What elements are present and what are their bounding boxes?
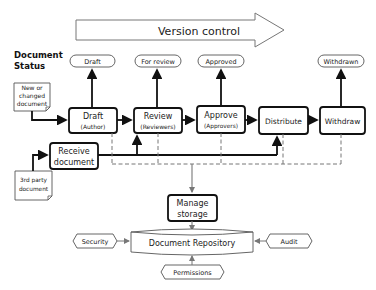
- process-receive-document: Receive document: [50, 143, 98, 169]
- svg-text:Draft: Draft: [83, 112, 103, 121]
- svg-text:storage: storage: [177, 210, 207, 219]
- status-heading-line1: Document: [14, 50, 63, 60]
- process-distribute: Distribute: [259, 107, 308, 134]
- svg-text:Distribute: Distribute: [265, 117, 302, 126]
- version-control-arrow: Version control: [76, 13, 284, 47]
- arrow-third-party-to-receive: [33, 155, 47, 171]
- control-audit: Audit: [266, 234, 312, 248]
- svg-text:Security: Security: [82, 238, 109, 246]
- process-approve: Approve (Approvers): [197, 106, 245, 133]
- third-party-document-note: 3rd party document: [15, 171, 52, 200]
- svg-text:changed: changed: [19, 92, 45, 100]
- svg-text:Permissions: Permissions: [173, 269, 212, 277]
- svg-text:document: document: [17, 100, 48, 107]
- status-withdrawn-label: Withdrawn: [324, 58, 359, 66]
- status-draft-label: Draft: [84, 58, 101, 66]
- status-pill-withdrawn: Withdrawn: [318, 55, 364, 67]
- status-pill-draft: Draft: [70, 55, 115, 67]
- document-management-diagram: Version control Document Status Draft Fo…: [0, 0, 376, 290]
- status-pill-for-review: For review: [135, 55, 181, 67]
- process-draft: Draft (Author): [69, 108, 117, 133]
- svg-text:document: document: [54, 158, 94, 167]
- version-control-label: Version control: [158, 25, 240, 38]
- process-withdraw: Withdraw: [320, 107, 365, 134]
- new-document-note: New or changed document: [14, 83, 50, 111]
- process-manage-storage: Manage storage: [168, 195, 217, 221]
- dashed-storage-connectors: [112, 133, 341, 164]
- svg-text:(Approvers): (Approvers): [204, 123, 238, 130]
- repository-label: Document Repository: [149, 239, 236, 248]
- control-security: Security: [73, 234, 117, 248]
- status-approved-label: Approved: [205, 58, 236, 66]
- svg-text:Approve: Approve: [204, 111, 237, 120]
- process-review: Review (Reviewers): [134, 108, 182, 133]
- svg-text:(Author): (Author): [81, 123, 106, 130]
- status-heading-line2: Status: [14, 61, 45, 71]
- control-permissions: Permissions: [161, 265, 224, 279]
- status-review-label: For review: [141, 58, 175, 66]
- svg-text:Receive: Receive: [58, 147, 89, 156]
- svg-text:Review: Review: [144, 112, 173, 121]
- svg-text:3rd party: 3rd party: [20, 177, 47, 184]
- document-repository: Document Repository: [131, 229, 253, 255]
- svg-text:(Reviewers): (Reviewers): [140, 123, 175, 130]
- svg-text:Audit: Audit: [280, 238, 297, 246]
- svg-text:document: document: [19, 186, 49, 192]
- svg-text:New or: New or: [21, 84, 43, 91]
- svg-text:Manage: Manage: [177, 199, 209, 208]
- svg-text:Withdraw: Withdraw: [325, 117, 361, 126]
- status-pill-approved: Approved: [198, 55, 244, 67]
- arrow-new-doc-to-draft: [32, 111, 66, 120]
